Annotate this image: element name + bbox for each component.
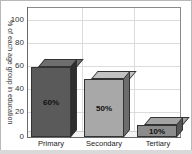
bar-primary-front: 60%	[31, 67, 71, 137]
x-label-primary: Primary	[26, 139, 76, 148]
y-axis-label-wrap: % of each age group in education	[14, 20, 15, 21]
bottom-band	[0, 150, 192, 154]
y-axis-label: % of each age group in education	[7, 20, 14, 124]
bar-tertiary-front: 10%	[137, 125, 177, 137]
x-label-secondary: Secondary	[79, 139, 129, 148]
bar-secondary: 50%	[84, 71, 130, 137]
x-axis	[27, 137, 181, 138]
bar-primary-side	[70, 59, 77, 138]
bar-secondary-side	[123, 71, 130, 138]
y-tick-0: 0	[6, 133, 24, 141]
y-axis	[27, 7, 28, 137]
x-label-tertiary: Tertiary	[133, 139, 183, 148]
bar-tertiary: 10%	[137, 117, 183, 137]
bar-secondary-front: 50%	[84, 79, 124, 137]
bar-primary: 60%	[31, 59, 77, 137]
